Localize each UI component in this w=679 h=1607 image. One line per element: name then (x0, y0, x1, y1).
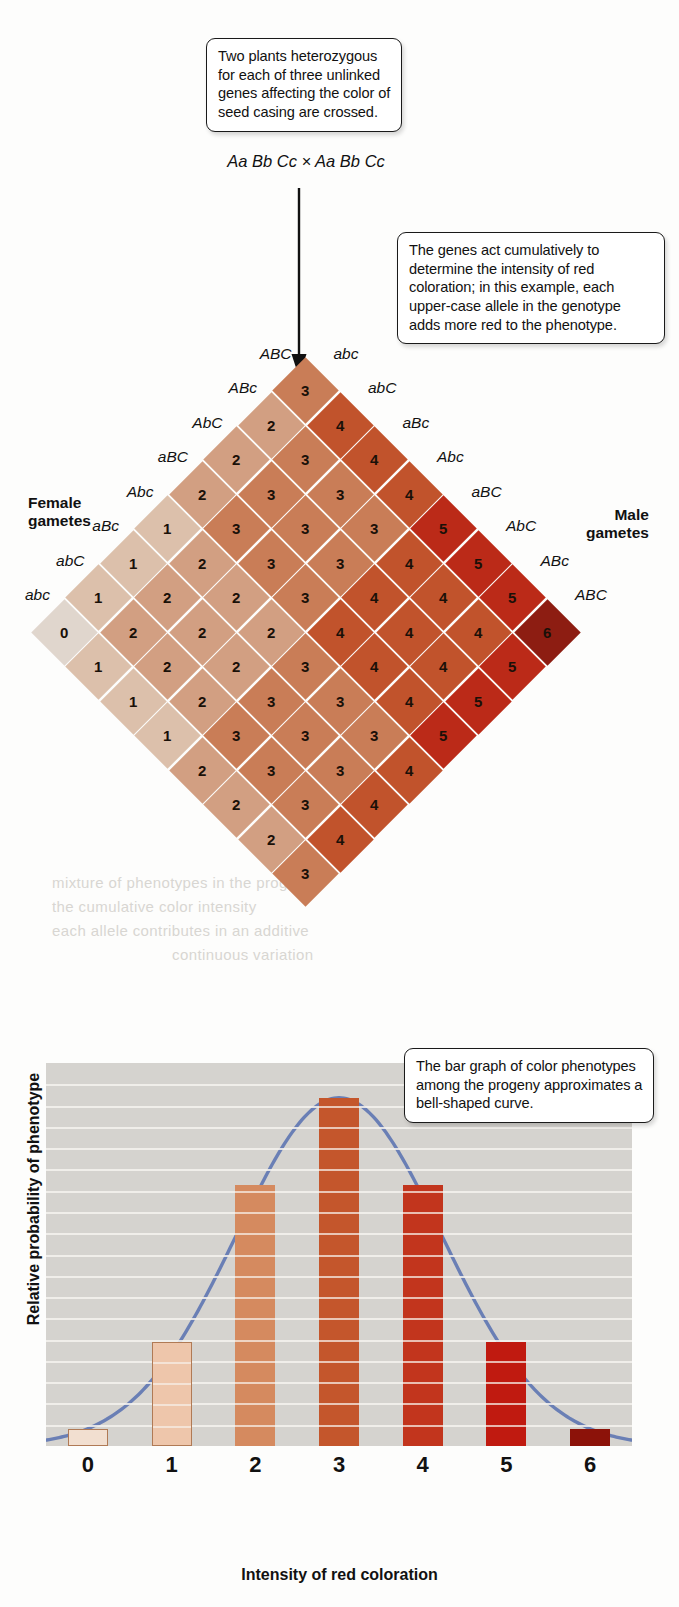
punnett-cell-value: 3 (336, 555, 344, 572)
punnett-cell-value: 3 (370, 520, 378, 537)
punnett-cell-value: 5 (439, 727, 447, 744)
chart-bar-segment (403, 1361, 443, 1363)
x-axis-tick-label: 0 (68, 1452, 108, 1478)
punnett-cell-value: 4 (474, 624, 482, 641)
callout-cross-text: Two plants heterozygous for each of thre… (218, 48, 390, 120)
punnett-cell-value: 3 (301, 382, 309, 399)
punnett-cell-value: 1 (94, 658, 102, 675)
punnett-cell-value: 3 (370, 727, 378, 744)
chart-bar-segment (486, 1403, 526, 1405)
punnett-cell-value: 5 (474, 693, 482, 710)
punnett-cell-value: 3 (267, 762, 275, 779)
punnett-cell-value: 3 (336, 693, 344, 710)
chart-bar-segment (235, 1276, 275, 1278)
chart-bar-segment (319, 1318, 359, 1320)
chart-bar-segment (153, 1426, 191, 1428)
chart-bar-segment (403, 1191, 443, 1193)
chart-bar-segment (319, 1276, 359, 1278)
male-gamete-label: aBc (403, 414, 459, 432)
y-axis-label: Relative probability of phenotype (25, 1029, 43, 1369)
x-axis-tick-label: 2 (235, 1452, 275, 1478)
female-gamete-label: ABC (236, 345, 292, 363)
male-gamete-label: aBC (472, 483, 528, 501)
chart-bar-segment (486, 1382, 526, 1384)
male-gamete-label: Abc (437, 448, 493, 466)
female-gamete-label: ABc (201, 379, 257, 397)
callout-cross-description: Two plants heterozygous for each of thre… (206, 38, 402, 132)
callout-genes-description: The genes act cumulatively to determine … (397, 232, 665, 344)
punnett-cell-value: 5 (474, 555, 482, 572)
callout-genes-text: The genes act cumulatively to determine … (409, 242, 621, 333)
punnett-cell-value: 4 (336, 624, 344, 641)
punnett-cell-value: 1 (94, 589, 102, 606)
chart-bar-segment (403, 1233, 443, 1235)
x-axis-tick-label: 6 (570, 1452, 610, 1478)
callout-bargraph-description: The bar graph of color phenotypes among … (404, 1048, 654, 1123)
punnett-cell-value: 4 (370, 451, 378, 468)
female-gamete-label: aBc (63, 517, 119, 535)
chart-bar-segment (235, 1403, 275, 1405)
punnett-cell-value: 3 (301, 451, 309, 468)
female-gamete-label: abC (29, 552, 85, 570)
x-axis-tick-label: 5 (486, 1452, 526, 1478)
punnett-cell-value: 3 (301, 865, 309, 882)
chart-bar-segment (403, 1403, 443, 1405)
chart-bar-segment (153, 1362, 191, 1364)
chart-bar (403, 1185, 443, 1446)
punnett-cell-value: 2 (198, 555, 206, 572)
punnett-cell-value: 4 (439, 589, 447, 606)
punnett-cell-value: 4 (370, 658, 378, 675)
male-gametes-label: Malegametes (586, 506, 649, 542)
punnett-cell-value: 3 (301, 658, 309, 675)
chart-bar-segment (403, 1318, 443, 1320)
x-axis-tick-label: 1 (152, 1452, 192, 1478)
punnett-cell-value: 2 (232, 451, 240, 468)
chart-bar-segment (319, 1255, 359, 1257)
chart-bar-segment (319, 1425, 359, 1427)
chart-bar (319, 1098, 359, 1446)
punnett-square: Femalegametes Malegametes 01112223122233… (0, 392, 679, 970)
female-gamete-label: AbC (167, 414, 223, 432)
punnett-cell-value: 4 (439, 658, 447, 675)
chart-bar-segment (403, 1382, 443, 1384)
punnett-cell-value: 2 (232, 796, 240, 813)
punnett-cell-value: 2 (198, 762, 206, 779)
punnett-cell-value: 3 (301, 520, 309, 537)
chart-bar-segment (153, 1383, 191, 1385)
punnett-cell-value: 2 (198, 693, 206, 710)
chart-bar-segment (235, 1425, 275, 1427)
chart-bar (486, 1342, 526, 1446)
punnett-cell-value: 3 (336, 486, 344, 503)
callout-bargraph-text: The bar graph of color phenotypes among … (416, 1058, 642, 1111)
male-gamete-label: ABC (575, 586, 631, 604)
punnett-cell-value: 4 (370, 589, 378, 606)
punnett-cell-value: 4 (405, 486, 413, 503)
female-gamete-label: abc (0, 586, 50, 604)
punnett-cell-value: 2 (232, 589, 240, 606)
punnett-cell-value: 3 (232, 727, 240, 744)
punnett-cell-value: 1 (129, 555, 137, 572)
chart-bar-segment (319, 1361, 359, 1363)
female-gamete-label: aBC (132, 448, 188, 466)
chart-bar-segment (235, 1382, 275, 1384)
chart-bar-segment (403, 1255, 443, 1257)
chart-bar-segment (235, 1318, 275, 1320)
chart-bar-segment (235, 1191, 275, 1193)
chart-bar-segment (486, 1425, 526, 1427)
punnett-cell-value: 1 (129, 693, 137, 710)
chart-bar-segment (235, 1212, 275, 1214)
chart-bar-segment (235, 1255, 275, 1257)
punnett-cell-value: 1 (163, 520, 171, 537)
punnett-cell-value: 3 (336, 762, 344, 779)
chart-bar-segment (403, 1212, 443, 1214)
chart-bar-segment (403, 1276, 443, 1278)
punnett-cell-value: 4 (405, 693, 413, 710)
punnett-cell-value: 3 (232, 520, 240, 537)
punnett-cell-value: 2 (267, 417, 275, 434)
punnett-cell-value: 4 (336, 831, 344, 848)
chart-bar (570, 1429, 610, 1446)
punnett-cell-value: 5 (508, 658, 516, 675)
punnett-cell-value: 4 (405, 555, 413, 572)
chart-bar-segment (235, 1361, 275, 1363)
male-gamete-label: ABc (541, 552, 597, 570)
